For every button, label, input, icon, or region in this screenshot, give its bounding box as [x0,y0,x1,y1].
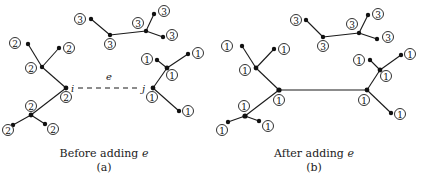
tree-top-a: 3 3 3 3 3 [75,6,178,50]
node-label: 1 [274,95,285,106]
tree-merged-b: 1 1 1 1 1 1 1 1 1 1 1 1 [217,41,416,136]
svg-text:2: 2 [5,126,11,136]
panel-a: 3 3 3 3 3 2 2 2 2 2 2 2 [3,6,204,175]
endpoint-i-label: i [71,83,74,94]
svg-text:1: 1 [276,96,282,106]
node-label: 1 [395,109,406,120]
endpoint-j-label: j [140,83,145,94]
edge-e-label: e [106,71,112,82]
node-label: 2 [48,124,59,135]
node-label: 1 [167,70,178,81]
svg-text:3: 3 [107,40,113,50]
node-label: 1 [147,92,158,103]
node-label: 3 [75,14,86,25]
node-label: 3 [318,41,329,52]
svg-text:1: 1 [397,110,403,120]
svg-text:3: 3 [161,7,167,17]
svg-text:3: 3 [169,31,175,41]
svg-text:1: 1 [195,49,201,59]
node-label: 1 [279,44,290,55]
node-label: 3 [291,15,302,26]
svg-text:3: 3 [349,20,355,30]
node-label: 1 [222,41,233,52]
svg-text:1: 1 [242,66,248,76]
node-label: 1 [381,71,392,82]
svg-text:1: 1 [219,126,225,136]
svg-text:2: 2 [63,93,69,103]
svg-text:2: 2 [50,125,56,135]
tree-top-b: 3 3 3 3 3 [291,9,394,52]
svg-text:1: 1 [281,45,287,55]
node-label: 1 [142,54,153,65]
node-label: 3 [373,9,384,20]
svg-text:3: 3 [293,16,299,26]
node-label: 2 [61,92,72,103]
svg-text:3: 3 [385,33,391,43]
node-label: 3 [347,19,358,30]
node-label: 2 [26,101,37,112]
svg-text:1: 1 [356,56,362,66]
panel-b: 3 3 3 3 3 [217,9,416,175]
caption-a: Before adding e [60,147,149,160]
svg-text:2: 2 [66,44,72,54]
svg-text:3: 3 [375,10,381,20]
svg-text:1: 1 [169,71,175,81]
node-label: 3 [167,30,178,41]
svg-text:1: 1 [241,102,247,112]
sublabel-b: (b) [306,161,322,174]
svg-text:3: 3 [135,19,141,29]
node-label: 2 [26,63,37,74]
node-label: 1 [239,101,250,112]
node-label: 1 [263,121,274,132]
svg-text:3: 3 [320,42,326,52]
node-label: 1 [183,106,194,117]
svg-text:1: 1 [144,55,150,65]
node-label: 3 [159,6,170,17]
node-label: 2 [10,38,21,49]
node-label: 1 [240,65,251,76]
svg-text:1: 1 [149,93,155,103]
tree-left-a: 2 2 2 2 2 2 2 i [3,38,75,136]
node-label: 1 [217,125,228,136]
node-label: 3 [133,18,144,29]
sublabel-a: (a) [96,161,111,174]
svg-text:1: 1 [407,50,413,60]
svg-text:1: 1 [361,96,367,106]
tree-right-a: 1 1 1 1 1 j [140,48,204,117]
diagram-canvas: 3 3 3 3 3 2 2 2 2 2 2 2 [0,0,421,187]
node-label: 3 [105,39,116,50]
caption-b: After adding e [273,147,354,160]
node-label: 1 [193,48,204,59]
node-label: 2 [64,43,75,54]
svg-text:1: 1 [185,107,191,117]
node-label: 1 [354,55,365,66]
svg-text:2: 2 [28,64,34,74]
node-label: 1 [405,49,416,60]
svg-text:2: 2 [28,102,34,112]
svg-text:3: 3 [77,15,83,25]
node-label: 2 [3,125,14,136]
node-label: 3 [383,32,394,43]
svg-text:1: 1 [383,72,389,82]
svg-text:1: 1 [265,122,271,132]
node-label: 1 [359,95,370,106]
svg-text:1: 1 [224,42,230,52]
svg-text:2: 2 [12,39,18,49]
